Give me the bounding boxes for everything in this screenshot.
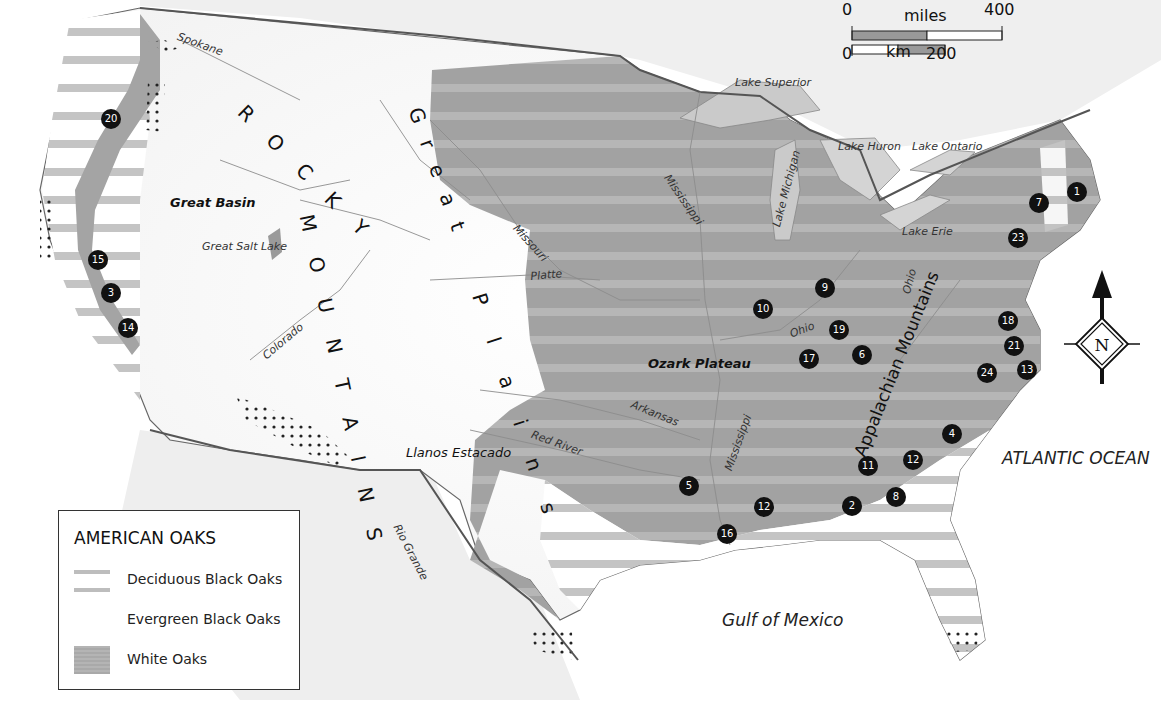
evergreen-dotted-california-coast (40, 200, 52, 260)
label-ozark-plateau: Ozark Plateau (648, 356, 708, 371)
site-marker-24[interactable]: 24 (977, 363, 997, 383)
site-marker-15[interactable]: 15 (88, 250, 108, 270)
legend-item-deciduous: Deciduous Black Oaks (74, 566, 294, 594)
site-marker-12b[interactable]: 12 (754, 497, 774, 517)
label-lake-erie: Lake Erie (902, 225, 953, 238)
legend-swatch-blank (74, 606, 110, 634)
site-marker-14[interactable]: 14 (118, 318, 138, 338)
scale-miles-start: 0 (842, 0, 852, 19)
site-marker-18[interactable]: 18 (998, 311, 1018, 331)
label-great-basin: Great Basin (170, 195, 230, 210)
site-marker-7[interactable]: 7 (1029, 193, 1049, 213)
scale-km-end: 200 (926, 44, 957, 63)
legend-label: Evergreen Black Oaks (127, 611, 280, 627)
site-marker-16[interactable]: 16 (717, 524, 737, 544)
label-lake-ontario: Lake Ontario (912, 140, 962, 153)
site-marker-13[interactable]: 13 (1017, 360, 1037, 380)
scale-bar: 0 miles 400 0 km 200 (842, 0, 1022, 70)
legend: AMERICAN OAKS Deciduous Black Oaks Everg… (58, 510, 300, 690)
label-gulf-of-mexico: Gulf of Mexico (722, 610, 802, 630)
site-marker-4[interactable]: 4 (942, 424, 962, 444)
site-marker-17[interactable]: 17 (799, 349, 819, 369)
legend-label: Deciduous Black Oaks (127, 571, 282, 587)
site-marker-21[interactable]: 21 (1004, 336, 1024, 356)
scale-km-start: 0 (842, 44, 852, 63)
label-atlantic-ocean: ATLANTIC OCEAN (1002, 448, 1102, 468)
legend-label: White Oaks (127, 651, 207, 667)
site-marker-23[interactable]: 23 (1008, 228, 1028, 248)
site-marker-1[interactable]: 1 (1067, 182, 1087, 202)
label-lake-superior: Lake Superior (735, 76, 795, 89)
site-marker-8[interactable]: 8 (886, 487, 906, 507)
site-marker-10[interactable]: 10 (753, 299, 773, 319)
legend-swatch-gray (74, 646, 110, 674)
scale-miles-end: 400 (984, 0, 1015, 19)
site-marker-2[interactable]: 2 (842, 496, 862, 516)
site-marker-5[interactable]: 5 (679, 476, 699, 496)
compass-n-label: N (1095, 335, 1110, 355)
site-marker-19[interactable]: 19 (829, 320, 849, 340)
new-england-light-band (1040, 140, 1068, 232)
north-arrow-icon: N (1062, 268, 1142, 386)
label-great-salt-lake: Great Salt Lake (202, 240, 272, 253)
legend-item-evergreen: Evergreen Black Oaks (74, 606, 294, 634)
legend-title: AMERICAN OAKS (74, 528, 216, 548)
label-river-platte: Platte (530, 267, 563, 283)
site-marker-20[interactable]: 20 (101, 109, 121, 129)
site-marker-9[interactable]: 9 (815, 278, 835, 298)
legend-item-white-oaks: White Oaks (74, 646, 294, 674)
site-marker-3[interactable]: 3 (101, 283, 121, 303)
scale-km-label: km (886, 42, 911, 61)
label-lake-huron: Lake Huron (838, 140, 888, 153)
site-marker-12a[interactable]: 12 (903, 450, 923, 470)
scale-miles-label: miles (904, 6, 947, 25)
site-marker-11[interactable]: 11 (858, 456, 878, 476)
compass-rose: N (1062, 268, 1142, 386)
site-marker-6[interactable]: 6 (852, 345, 872, 365)
legend-swatch-stripes (74, 566, 110, 594)
evergreen-dotted-idaho (146, 80, 165, 132)
label-llanos-estacado: Llanos Estacado (406, 445, 468, 460)
